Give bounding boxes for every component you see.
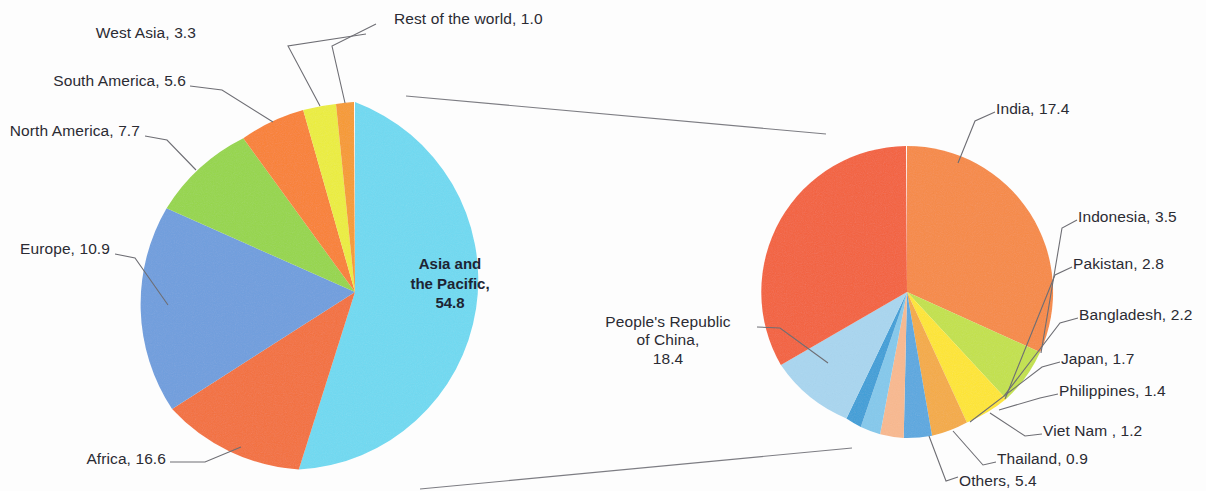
breakout-label-india: India, 17.4 (996, 100, 1070, 118)
breakout-connector-bottom (420, 448, 852, 489)
breakout-pie (761, 146, 1053, 438)
main-inner-label-line-2: the Pacific, (370, 274, 530, 294)
breakout-label-bangladesh: Bangladesh, 2.2 (1079, 306, 1193, 324)
main-label-south-america: South America, 5.6 (0, 72, 186, 90)
breakout-label-china: People's Republic of China, 18.4 (578, 313, 758, 368)
breakout-label-china-line-3: 18.4 (578, 350, 758, 368)
leader-west-asia (288, 34, 366, 106)
breakout-label-pakistan: Pakistan, 2.8 (1073, 255, 1164, 273)
leader-thailand (953, 431, 996, 465)
main-label-rest-of-world: Rest of the world, 1.0 (394, 10, 543, 28)
main-inner-label-line-1: Asia and (370, 254, 530, 274)
breakout-label-philippines: Philippines, 1.4 (1059, 382, 1166, 400)
breakout-label-viet-nam: Viet Nam , 1.2 (1043, 422, 1142, 440)
leader-north-america (145, 136, 196, 170)
main-label-europe: Europe, 10.9 (0, 240, 110, 258)
main-label-west-asia: West Asia, 3.3 (0, 24, 196, 42)
breakout-label-indonesia: Indonesia, 3.5 (1078, 208, 1177, 226)
breakout-label-china-line-1: People's Republic (578, 313, 758, 331)
main-inner-label-asia-pacific: Asia and the Pacific, 54.8 (370, 254, 530, 313)
breakout-label-china-line-2: of China, (578, 331, 758, 349)
leader-viet-nam (990, 413, 1042, 436)
main-label-north-america: North America, 7.7 (0, 122, 140, 140)
breakout-label-thailand: Thailand, 0.9 (997, 450, 1088, 468)
leader-india (958, 112, 995, 163)
breakout-label-others: Others, 5.4 (959, 472, 1037, 490)
leader-south-america (190, 86, 273, 122)
main-inner-label-line-3: 54.8 (370, 293, 530, 313)
main-label-africa: Africa, 16.6 (0, 450, 166, 468)
chart-canvas: West Asia, 3.3 Rest of the world, 1.0 So… (0, 0, 1206, 491)
leader-others (929, 436, 958, 481)
breakout-label-japan: Japan, 1.7 (1061, 350, 1134, 368)
breakout-connector-top (406, 96, 826, 134)
